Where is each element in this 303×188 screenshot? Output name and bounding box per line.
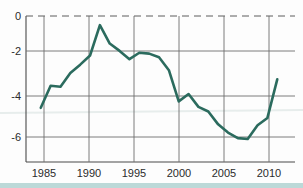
vertical-gridlines (44, 16, 269, 162)
line-chart: 0 -2 -4 -6 1985 1990 1995 2000 2005 2010 (0, 0, 303, 188)
x-tick-label: 2000 (167, 167, 191, 179)
data-line-series (41, 25, 277, 139)
horizontal-gridlines (26, 51, 295, 137)
footer-band (0, 183, 303, 188)
y-axis-tick-labels: 0 -2 -4 -6 (11, 10, 21, 143)
chart-container: 0 -2 -4 -6 1985 1990 1995 2000 2005 2010 (0, 0, 303, 188)
background-artifact-line (0, 110, 303, 113)
x-tick-label: 1990 (77, 167, 101, 179)
x-tick-label: 1995 (122, 167, 146, 179)
y-tick-label: -4 (11, 90, 21, 102)
y-tick-label: -6 (11, 131, 21, 143)
y-tick-label: 0 (15, 10, 21, 22)
x-axis-tick-labels: 1985 1990 1995 2000 2005 2010 (32, 167, 281, 179)
x-tick-label: 1985 (32, 167, 56, 179)
y-tick-label: -2 (11, 45, 21, 57)
plot-frame (26, 16, 295, 162)
x-tick-label: 2010 (257, 167, 281, 179)
x-tick-label: 2005 (212, 167, 236, 179)
